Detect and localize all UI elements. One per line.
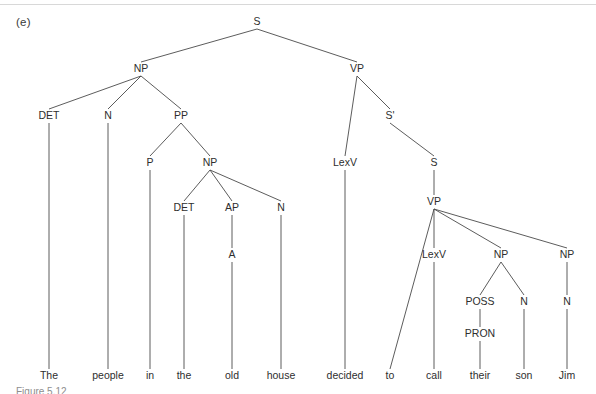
tree-node-np4: NP xyxy=(560,248,575,260)
tree-edge xyxy=(257,29,357,62)
tree-word-their: their xyxy=(470,369,491,381)
tree-word-to: to xyxy=(386,369,395,381)
tree-node-vp1: VP xyxy=(350,62,364,74)
tree-edge xyxy=(181,123,210,156)
tree-edge xyxy=(434,209,567,248)
tree-word-jim: Jim xyxy=(559,369,576,381)
tree-edge xyxy=(345,76,357,156)
tree-word-house: house xyxy=(267,369,296,381)
tree-node-s2: S xyxy=(430,156,437,168)
figure-caption: Figure 5.12 xyxy=(16,386,67,394)
tree-nodes-group: SNPVPDETNPPS'PNPLexVSDETAPNVPALexVNPNPPO… xyxy=(39,15,575,339)
tree-word-call: call xyxy=(426,369,442,381)
tree-edge xyxy=(357,76,390,109)
tree-node-lexv1: LexV xyxy=(333,156,357,168)
tree-edge xyxy=(184,170,210,201)
tree-edge xyxy=(434,209,501,248)
tree-node-a: A xyxy=(228,248,235,260)
tree-node-s: S xyxy=(253,15,260,27)
tree-word-decided: decided xyxy=(327,369,364,381)
tree-node-poss: POSS xyxy=(465,295,494,307)
tree-node-sbar: S' xyxy=(385,109,394,121)
tree-edge xyxy=(390,209,434,369)
tree-edge xyxy=(108,76,141,109)
tree-words-group: Thepeopleintheoldhousedecidedtocalltheir… xyxy=(40,369,575,381)
tree-node-ap: AP xyxy=(225,201,239,213)
tree-node-np3: NP xyxy=(494,248,509,260)
tree-node-n2: N xyxy=(277,201,285,213)
tree-edge xyxy=(501,262,524,295)
tree-edge xyxy=(150,123,181,156)
tree-edge xyxy=(390,123,434,156)
tree-edge xyxy=(480,262,501,295)
tree-word-people: people xyxy=(92,369,124,381)
tree-node-det1: DET xyxy=(39,109,61,121)
tree-edges-group xyxy=(49,29,567,369)
tree-node-det2: DET xyxy=(174,201,196,213)
tree-word-the: The xyxy=(40,369,58,381)
figure-page: (e) SNPVPDETNPPS'PNPLexVSDETAPNVPALexVNP… xyxy=(0,0,596,394)
tree-node-pron: PRON xyxy=(465,327,495,339)
tree-edge xyxy=(141,29,257,62)
tree-node-np1: NP xyxy=(134,62,149,74)
tree-node-pp: PP xyxy=(174,109,188,121)
tree-node-n3: N xyxy=(520,295,528,307)
tree-word-the: the xyxy=(177,369,192,381)
tree-word-in: in xyxy=(146,369,154,381)
tree-edge xyxy=(49,76,141,109)
tree-node-n1: N xyxy=(104,109,112,121)
tree-node-vp2: VP xyxy=(427,195,441,207)
tree-word-old: old xyxy=(225,369,239,381)
tree-node-p: P xyxy=(146,156,153,168)
tree-node-n4: N xyxy=(563,295,571,307)
tree-edge xyxy=(141,76,181,109)
syntax-tree-diagram: SNPVPDETNPPS'PNPLexVSDETAPNVPALexVNPNPPO… xyxy=(0,0,596,394)
tree-word-son: son xyxy=(516,369,533,381)
tree-node-lexv2: LexV xyxy=(422,248,446,260)
tree-node-np2: NP xyxy=(203,156,218,168)
